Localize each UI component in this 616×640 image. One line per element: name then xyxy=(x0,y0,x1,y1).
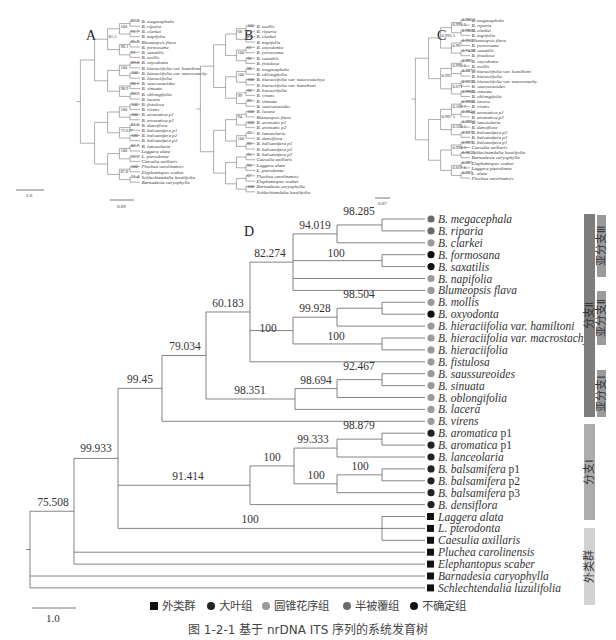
tree-panel-a: B. megacephalaB. ripariaB. clarkeiB. nap… xyxy=(76,18,207,185)
support-value: 98.1 xyxy=(131,81,139,86)
taxon-label: Elephantopus scaber xyxy=(256,179,299,184)
support-value: 97.9 xyxy=(131,18,140,23)
group-circle-icon xyxy=(427,370,434,377)
scale-label-b: 0.09 xyxy=(117,204,126,209)
taxon-label: B. virens xyxy=(438,415,479,427)
taxon-label: B. clarkei xyxy=(257,34,277,39)
clade-bars: 分支Ⅱ亚分支Ⅲ亚分支Ⅱ亚分支Ⅰ分支Ⅰ外类群 xyxy=(582,214,608,605)
group-circle-icon xyxy=(427,251,434,258)
group-circle-icon xyxy=(427,346,434,353)
support-value: 100 xyxy=(241,513,259,525)
legend-circle-icon xyxy=(207,602,215,610)
support-value: 0.995 5 xyxy=(452,63,466,68)
support-value: 0.671 xyxy=(452,84,462,89)
support-value: 98.879 xyxy=(343,419,375,431)
taxon-label: B. mollis xyxy=(257,24,275,29)
support-value: 98.504 xyxy=(343,288,375,300)
support-value: 0.998 5 xyxy=(462,89,476,94)
branch xyxy=(236,157,246,168)
support-value: 98.285 xyxy=(343,205,375,217)
support-value: 100 xyxy=(131,112,139,117)
legend-label: 半被覆组 xyxy=(355,599,400,613)
taxon-label: B. mollis xyxy=(438,296,479,308)
support-value: 100 xyxy=(131,164,139,169)
legend-circle-icon xyxy=(262,602,270,610)
support-value: 99 xyxy=(247,163,252,168)
support-value: 91 xyxy=(131,50,136,55)
support-value: 0.741 6 xyxy=(462,48,476,53)
support-value: 0.560 1 xyxy=(452,124,466,129)
group-circle-icon xyxy=(427,287,434,294)
support-value: 100 xyxy=(247,77,255,82)
legend-label: 不确定组 xyxy=(422,599,467,613)
support-value: 100 xyxy=(327,330,345,342)
support-value: 100 xyxy=(263,451,281,463)
support-value: 100 xyxy=(259,322,277,334)
group-circle-icon xyxy=(427,299,434,306)
taxon-label: Schlechtendalia luzulifolia xyxy=(257,190,311,195)
group-circle-icon xyxy=(427,311,434,318)
taxon-label: B. saussureoides xyxy=(257,104,290,109)
branch xyxy=(108,29,120,50)
support-value: 99 xyxy=(247,141,252,146)
taxon-label: B. aromatic p2 xyxy=(257,125,287,130)
clade-bar-label: 分支Ⅰ xyxy=(583,459,596,484)
taxon-label: B. saussureoides xyxy=(438,368,515,380)
support-value: 100 xyxy=(237,50,245,55)
taxon-label: B. hieraciifolia var. hamiltoni xyxy=(257,83,317,88)
support-value: 100 xyxy=(237,136,245,141)
branch xyxy=(429,38,441,79)
taxon-label: B. aromatic p1 xyxy=(257,120,287,125)
support-value: 0.936 xyxy=(462,38,473,43)
taxon-label: B. balsamifera p3 xyxy=(257,152,293,157)
branch xyxy=(226,34,237,55)
taxon-label: L. pterodonta xyxy=(256,168,285,173)
scale-label-a: 2.0 xyxy=(26,193,33,198)
taxon-label: B. virens xyxy=(257,93,275,98)
tree-panel-b: B. mollisB. ripariaB. clarkeiB. napifoli… xyxy=(196,23,325,194)
branch xyxy=(200,66,213,152)
taxon-label: Barnadesia caryophylla xyxy=(142,180,191,185)
taxon-label: B. balsamifera p2 xyxy=(257,147,293,152)
support-value: 99.333 xyxy=(297,433,329,445)
support-value: 89.8 xyxy=(131,60,140,65)
taxon-label: B. formosana xyxy=(257,50,284,55)
support-value: 0.566 7 xyxy=(452,104,466,109)
branch xyxy=(108,112,120,133)
legend-circle-icon xyxy=(343,602,351,610)
taxon-label: Caesulia axillaris xyxy=(438,534,521,546)
group-circle-icon xyxy=(427,489,434,496)
group-circle-icon xyxy=(427,406,434,413)
group-circle-icon xyxy=(427,442,434,449)
taxon-label: B. balsamifera p1 xyxy=(257,141,293,146)
group-circle-icon xyxy=(427,382,434,389)
taxon-label: Schlechtendalia luzulifolia xyxy=(438,582,561,595)
support-value: 99.45 xyxy=(127,373,153,385)
support-value: 100 xyxy=(131,70,139,75)
support-value: 98.9 xyxy=(120,86,129,91)
clade-bar-label: 亚分支Ⅱ xyxy=(595,299,608,337)
support-value: 82.274 xyxy=(254,247,286,259)
support-value: 100 xyxy=(247,184,255,189)
clade-bar-label: 亚分支Ⅲ xyxy=(595,226,608,267)
support-value: 99 xyxy=(247,98,252,103)
support-value: 0.984 5 xyxy=(462,109,476,114)
legend-circle-icon xyxy=(410,602,418,610)
support-value: 100 xyxy=(247,23,255,28)
support-value: 73 xyxy=(247,130,252,135)
support-value: 87.8 xyxy=(120,169,129,174)
support-value: 100 xyxy=(131,133,139,138)
support-value: 0.962 5 xyxy=(462,150,476,155)
support-value: 81.5 xyxy=(109,34,118,39)
support-value: 0.627 xyxy=(462,130,473,135)
scale-label-c: 0.07 xyxy=(378,201,387,206)
group-circle-icon xyxy=(427,358,434,365)
support-value: 52.2 xyxy=(131,154,139,159)
panel-label-d: D xyxy=(244,224,254,239)
taxon-label: Pluchea carolinensis xyxy=(471,176,514,181)
group-circle-icon xyxy=(427,501,434,508)
taxon-label: B. lanceolaria xyxy=(257,131,286,136)
support-value: 100 xyxy=(307,469,325,481)
support-value: 67 xyxy=(247,173,252,178)
taxon-label: B. lacera xyxy=(257,109,276,114)
